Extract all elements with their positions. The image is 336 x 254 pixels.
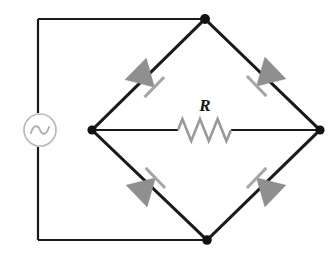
node-bottom [202, 235, 212, 245]
circuit-diagram: R [0, 0, 336, 254]
ac-voltage-source [24, 114, 56, 146]
diode-bottom-left [126, 167, 166, 207]
resistor-branch: R [92, 96, 320, 141]
node-top [200, 14, 210, 24]
node-right [315, 125, 324, 134]
resistor-zigzag [178, 119, 231, 141]
resistor-label: R [198, 96, 210, 115]
node-left [87, 125, 96, 134]
diode-bottom-right [246, 167, 286, 207]
diode-triangle-icon [126, 167, 166, 207]
sine-wave-icon [31, 126, 49, 134]
diode-triangle-icon [246, 167, 286, 207]
